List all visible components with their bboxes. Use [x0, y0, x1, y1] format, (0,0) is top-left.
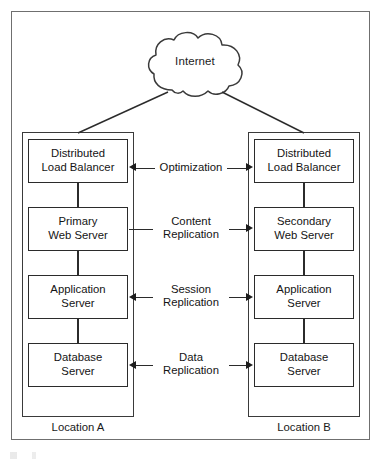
node-db-b-line1: Database: [278, 351, 330, 365]
node-db-b-label: Database Server: [276, 351, 332, 378]
node-app-b-line1: Application: [274, 283, 333, 297]
node-web-a-line1: Primary: [46, 215, 109, 229]
link-session-line2: Replication: [163, 296, 219, 308]
node-lb-a-line1: Distributed: [40, 147, 117, 161]
node-app-a-label: Application Server: [46, 283, 109, 310]
node-lb-a[interactable]: Distributed Load Balancer: [28, 139, 128, 183]
node-lb-b-line2: Load Balancer: [266, 161, 343, 175]
link-data-line2: Replication: [163, 364, 219, 376]
location-b-caption: Location B: [248, 421, 360, 433]
link-data-label: Data Replication: [153, 351, 229, 378]
vconn-a-1: [77, 183, 79, 207]
link-optimization-arrow-left: [129, 163, 136, 171]
vconn-a-3: [77, 319, 79, 343]
node-web-b[interactable]: Secondary Web Server: [254, 207, 354, 251]
node-db-b-line2: Server: [278, 365, 330, 379]
node-app-a-line2: Server: [48, 297, 107, 311]
node-lb-b-line1: Distributed: [266, 147, 343, 161]
node-lb-b-label: Distributed Load Balancer: [264, 147, 345, 174]
node-db-a-line1: Database: [52, 351, 104, 365]
link-content-line1: Content: [171, 215, 211, 227]
link-data-line1: Data: [179, 351, 203, 363]
node-app-b-line2: Server: [274, 297, 333, 311]
link-session-label: Session Replication: [153, 283, 229, 310]
node-db-a-line2: Server: [52, 365, 104, 379]
link-session-line1: Session: [171, 283, 211, 295]
node-app-b-label: Application Server: [272, 283, 335, 310]
node-web-a-line2: Web Server: [46, 229, 109, 243]
vconn-b-1: [303, 183, 305, 207]
diagram-canvas: Internet Distributed Load Balancer Prima…: [0, 0, 384, 463]
node-web-b-label: Secondary Web Server: [270, 215, 337, 242]
link-content-arrow-right: [246, 224, 253, 232]
node-lb-b[interactable]: Distributed Load Balancer: [254, 139, 354, 183]
link-data-arrow-right: [246, 361, 253, 369]
link-optimization-line1: Optimization: [160, 161, 223, 173]
node-app-a-line1: Application: [48, 283, 107, 297]
node-db-b[interactable]: Database Server: [254, 343, 354, 387]
vconn-b-3: [303, 319, 305, 343]
node-web-a-label: Primary Web Server: [44, 215, 111, 242]
node-app-a[interactable]: Application Server: [28, 275, 128, 319]
node-lb-a-label: Distributed Load Balancer: [38, 147, 119, 174]
link-data-arrow-left: [129, 361, 136, 369]
vconn-b-2: [303, 251, 305, 275]
location-a-caption: Location A: [22, 421, 134, 433]
link-content-label: Content Replication: [153, 215, 229, 242]
node-app-b[interactable]: Application Server: [254, 275, 354, 319]
link-content-line2: Replication: [163, 228, 219, 240]
vconn-a-2: [77, 251, 79, 275]
node-lb-a-line2: Load Balancer: [40, 161, 117, 175]
node-web-b-line1: Secondary: [272, 215, 335, 229]
node-db-a[interactable]: Database Server: [28, 343, 128, 387]
link-session-arrow-right: [246, 293, 253, 301]
node-web-b-line2: Web Server: [272, 229, 335, 243]
link-session-arrow-left: [129, 293, 136, 301]
node-db-a-label: Database Server: [50, 351, 106, 378]
node-web-a[interactable]: Primary Web Server: [28, 207, 128, 251]
link-optimization-arrow-right: [246, 163, 253, 171]
link-optimization-label: Optimization: [155, 161, 227, 174]
